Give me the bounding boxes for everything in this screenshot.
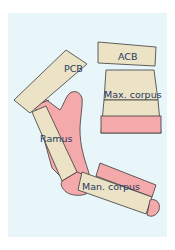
diagram: PCB ACB Max. corpus Ramus Man. corpus — [0, 0, 175, 250]
label-max-corpus: Max. corpus — [104, 89, 162, 100]
label-acb: ACB — [118, 51, 137, 62]
label-man-corpus: Man. corpus — [82, 181, 140, 192]
label-pcb: PCB — [64, 63, 83, 74]
label-ramus: Ramus — [40, 133, 72, 144]
max-corpus-soft-tissue — [101, 116, 161, 133]
